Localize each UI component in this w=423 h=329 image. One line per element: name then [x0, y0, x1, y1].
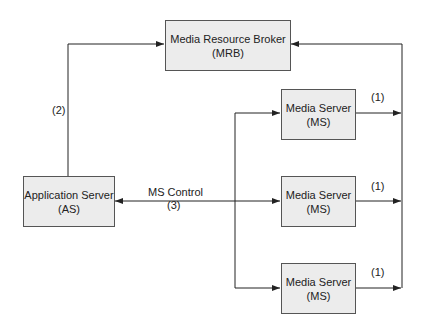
ms-abbr: (MS): [307, 115, 331, 129]
edge-label-ms-control: MS Control: [148, 186, 203, 198]
mrb-title: Media Resource Broker: [170, 32, 286, 46]
ms-abbr: (MS): [307, 202, 331, 216]
mrb-abbr: (MRB): [212, 46, 244, 60]
edge-label-2: (2): [52, 104, 65, 116]
ms-node-3: Media Server (MS): [281, 263, 356, 314]
ms-abbr: (MS): [307, 289, 331, 303]
ms-title: Media Server: [286, 188, 351, 202]
as-title: Application Server: [24, 188, 113, 202]
edge-label-1b: (1): [371, 180, 384, 192]
as-abbr: (AS): [58, 202, 80, 216]
ms-node-2: Media Server (MS): [281, 176, 356, 227]
ms-node-1: Media Server (MS): [281, 89, 356, 140]
edge-label-1c: (1): [371, 266, 384, 278]
mrb-node: Media Resource Broker (MRB): [165, 20, 291, 71]
edge-label-1a: (1): [371, 91, 384, 103]
edge-label-3: (3): [167, 199, 180, 211]
ms-title: Media Server: [286, 275, 351, 289]
as-node: Application Server (AS): [23, 176, 115, 227]
ms-title: Media Server: [286, 101, 351, 115]
